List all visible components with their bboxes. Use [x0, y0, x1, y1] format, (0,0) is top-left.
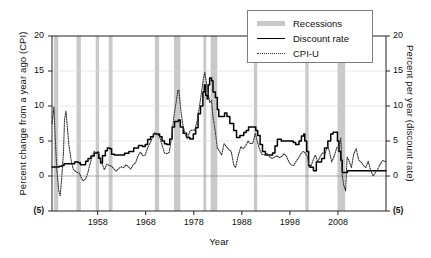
legend-label-discount-rate: Discount rate [293, 33, 349, 44]
cpi-u-line-icon [256, 48, 286, 59]
x-tick-label: 1978 [174, 217, 214, 227]
y-tick-label-left: 15 [18, 65, 44, 75]
legend-label-recessions: Recessions [293, 18, 342, 29]
recessions-swatch-icon [256, 18, 286, 29]
y-tick-label-right: 10 [393, 100, 419, 110]
chart-legend[interactable]: Recessions Discount rate CPI-U [247, 10, 373, 63]
legend-item-recessions[interactable]: Recessions [248, 16, 372, 31]
discount-rate-line-icon [256, 33, 286, 44]
figure-container: Recessions Discount rate CPI-U Percent c… [0, 0, 431, 258]
x-tick-label: 1998 [270, 217, 310, 227]
y-tick-label-left: 20 [18, 30, 44, 40]
y-tick-label-right: 0 [393, 170, 419, 180]
x-tick-label: 1968 [126, 217, 166, 227]
x-tick-label: 2008 [318, 217, 358, 227]
legend-item-discount-rate[interactable]: Discount rate [248, 31, 372, 46]
y-tick-label-right: 5 [393, 135, 419, 145]
x-axis-title: Year [52, 236, 386, 247]
y-tick-label-left: 5 [18, 135, 44, 145]
y-tick-label-right: 15 [393, 65, 419, 75]
x-tick-label: 1988 [222, 217, 262, 227]
y-tick-label-right: (5) [393, 205, 419, 215]
x-tick-label: 1958 [78, 217, 118, 227]
y-tick-label-right: 20 [393, 30, 419, 40]
y-tick-label-left: 10 [18, 100, 44, 110]
data-series-group [52, 72, 386, 195]
y-tick-label-left: (5) [18, 205, 44, 215]
legend-label-cpi-u: CPI-U [293, 48, 319, 59]
y-tick-label-left: 0 [18, 170, 44, 180]
legend-item-cpi-u[interactable]: CPI-U [248, 46, 372, 61]
